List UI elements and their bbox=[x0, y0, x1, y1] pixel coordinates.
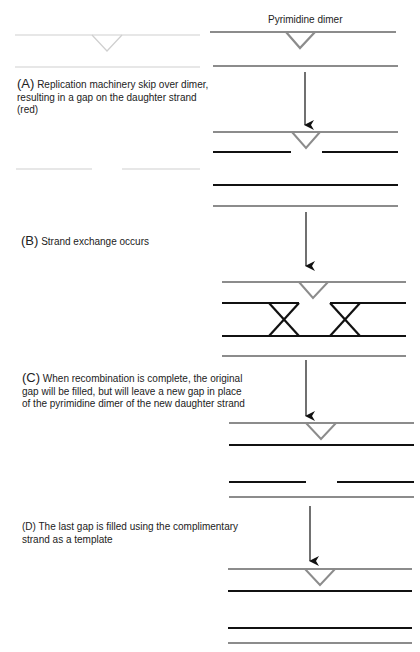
panel-d-duplex bbox=[228, 569, 412, 643]
step-d-text-line-1: The last gap is filled using the complim… bbox=[39, 521, 239, 532]
step-b-text-line-1: Strand exchange occurs bbox=[41, 236, 149, 247]
step-a-marker: (A) bbox=[17, 76, 34, 91]
step-c-marker: (C) bbox=[22, 370, 40, 385]
step-d-label: (D) The last gap is filled using the com… bbox=[22, 521, 238, 546]
step-a-text-line-2: resulting in a gap on the daughter stran… bbox=[17, 92, 208, 105]
step-d-marker: (D) bbox=[22, 521, 36, 532]
step-d-text-line-2: strand as a template bbox=[22, 534, 238, 547]
panel-b-duplex bbox=[222, 282, 406, 356]
pyrimidine-dimer-icon bbox=[305, 569, 335, 585]
step-c-text-line-2: gap will be filled, but will leave a new… bbox=[22, 386, 245, 399]
strand-exchange-crossover-left bbox=[269, 303, 299, 336]
step-b-marker: (B) bbox=[21, 233, 38, 248]
panel-a-duplex bbox=[213, 132, 398, 206]
panel-c-duplex bbox=[229, 423, 414, 497]
step-b-label: (B) Strand exchange occurs bbox=[21, 235, 149, 249]
strand-exchange-crossover-right bbox=[330, 303, 360, 336]
pyrimidine-dimer-icon bbox=[306, 423, 336, 439]
pyrimidine-dimer-icon bbox=[292, 132, 320, 148]
ghost-duplex-initial bbox=[15, 35, 200, 67]
step-a-text-line-3: (red) bbox=[17, 104, 208, 117]
pyrimidine-dimer-icon bbox=[286, 32, 315, 48]
initial-duplex bbox=[210, 32, 398, 66]
step-c-text-line-3: of the pyrimidine dimer of the new daugh… bbox=[22, 398, 245, 411]
pyrimidine-dimer-icon bbox=[299, 282, 328, 298]
ghost-dimer-icon bbox=[92, 35, 122, 51]
step-c-label: (C) When recombination is complete, the … bbox=[22, 372, 245, 411]
step-c-text-line-1: When recombination is complete, the orig… bbox=[43, 373, 243, 384]
step-a-text-line-1: Replication machinery skip over dimer, bbox=[37, 79, 208, 90]
step-a-label: (A) Replication machinery skip over dime… bbox=[17, 78, 208, 117]
